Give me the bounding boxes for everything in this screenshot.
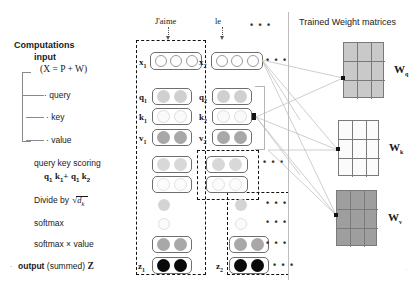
cell-q1 bbox=[152, 88, 192, 105]
row-label-z2: z2 bbox=[216, 261, 223, 273]
cell-k1 bbox=[152, 108, 192, 125]
dot-medium bbox=[217, 131, 230, 144]
dot-empty bbox=[170, 55, 182, 67]
cell-score-2 bbox=[206, 156, 248, 173]
matrix-wv-label: Wv bbox=[388, 211, 402, 225]
row-label-q2: q2 bbox=[199, 92, 207, 104]
matrix-wk-label-text: W bbox=[389, 141, 400, 153]
dot-light bbox=[212, 158, 225, 171]
dot-faint bbox=[212, 178, 225, 191]
attention-diagram: Computations input (X = P + W) · query ·… bbox=[0, 0, 415, 293]
output-bullet: · bbox=[10, 263, 12, 270]
row-label-v2-sub: 2 bbox=[204, 139, 207, 145]
dot-black bbox=[174, 259, 187, 272]
row-label-x2-sub: 2 bbox=[204, 63, 207, 69]
dot-black bbox=[234, 259, 247, 272]
dot-medium bbox=[251, 238, 264, 251]
token-2-arrowhead bbox=[220, 36, 224, 40]
matrix-wk-anchor bbox=[336, 147, 340, 151]
grid-line bbox=[337, 228, 378, 229]
header-ellipsis: • • • bbox=[250, 20, 271, 30]
matrix-wk bbox=[338, 120, 379, 176]
radicand-sub: k bbox=[82, 201, 85, 207]
row-label-k2-sub: 2 bbox=[204, 118, 207, 124]
dot-light bbox=[157, 158, 170, 171]
row-label-v1-sub: 1 bbox=[144, 139, 147, 145]
panel-divider bbox=[288, 12, 289, 280]
matrix-wq-label: Wq bbox=[394, 63, 408, 77]
dot-faint bbox=[234, 110, 247, 123]
matrix-wv-label-text: W bbox=[388, 211, 399, 223]
cell-x2 bbox=[211, 52, 263, 70]
row-label-q1-sub: 1 bbox=[144, 98, 147, 104]
step-scoring-label: query key scoring bbox=[34, 159, 101, 168]
step-softmax-label: softmax bbox=[34, 219, 64, 228]
step-divide-label: Divide by bbox=[34, 195, 69, 205]
cell-k2 bbox=[212, 108, 252, 125]
row-label-q1: q1 bbox=[139, 92, 147, 104]
matrix-wq bbox=[343, 42, 384, 98]
ellipsis-x-row: • • • bbox=[266, 55, 287, 65]
ellipsis-z-row: • • • bbox=[273, 260, 294, 270]
step-output-note: (summed) bbox=[47, 261, 85, 271]
dot-softmax-1 bbox=[158, 218, 170, 230]
ellipsis-softmax-value-row: • • • bbox=[266, 238, 287, 248]
matrix-wv bbox=[336, 190, 377, 246]
dot-light bbox=[157, 90, 170, 103]
token-name-1: J'aime bbox=[155, 16, 176, 26]
grid-line bbox=[352, 121, 353, 177]
input-formula: (X = P + W) bbox=[40, 64, 87, 74]
matrix-wk-label: Wk bbox=[389, 141, 403, 155]
step-query-label: query bbox=[49, 90, 70, 100]
dot-medium bbox=[234, 238, 247, 251]
ellipsis-score-row: • • • bbox=[263, 157, 284, 167]
left-column-subheader: input bbox=[34, 52, 56, 62]
dot-medium bbox=[174, 238, 187, 251]
ellipsis-softmax-row: • • • bbox=[266, 217, 287, 227]
cell-softmax-value-1 bbox=[152, 236, 192, 253]
matrix-wq-label-sub: q bbox=[405, 71, 408, 77]
cell-q2 bbox=[212, 88, 252, 105]
qkv-bracket bbox=[22, 72, 31, 142]
row-label-k1-sub: 1 bbox=[144, 118, 147, 124]
row-label-q2-sub: 2 bbox=[204, 98, 207, 104]
dot-faint bbox=[174, 110, 187, 123]
cell-scaled-1 bbox=[152, 176, 192, 193]
cell-v1 bbox=[152, 129, 192, 146]
matrix-wv-anchor bbox=[334, 213, 338, 217]
dot-faint bbox=[157, 178, 170, 191]
sqrt-group: √dk bbox=[71, 196, 84, 207]
grid-line bbox=[344, 80, 385, 81]
dot-black bbox=[157, 259, 170, 272]
cell-v2 bbox=[212, 129, 252, 146]
grid-line bbox=[364, 191, 365, 247]
formula-k2-sub: 2 bbox=[87, 177, 90, 183]
matrix-wk-label-sub: k bbox=[400, 149, 403, 155]
matrix-wq-anchor bbox=[341, 76, 345, 80]
grid-line bbox=[337, 209, 378, 210]
grid-line bbox=[339, 139, 380, 140]
row-label-z1: z1 bbox=[138, 261, 145, 273]
step-value-label: value bbox=[51, 135, 71, 145]
matrix-wq-label-text: W bbox=[394, 63, 405, 75]
dot-empty bbox=[186, 55, 198, 67]
dot-light bbox=[174, 158, 187, 171]
row-label-z1-sub: 1 bbox=[142, 267, 145, 273]
step-output: output (summed) Z bbox=[18, 262, 94, 272]
left-column-header: Computations bbox=[14, 40, 75, 50]
dot-light bbox=[174, 90, 187, 103]
dot-light bbox=[234, 90, 247, 103]
dot-empty bbox=[247, 55, 259, 67]
token-name-2: le bbox=[215, 16, 221, 26]
key-tick bbox=[26, 117, 44, 118]
dot-empty bbox=[155, 55, 167, 67]
dot-faint bbox=[174, 178, 187, 191]
radical-bar bbox=[76, 196, 88, 197]
dot-divide-2 bbox=[235, 199, 247, 211]
ellipsis-divide-row: • • • bbox=[266, 198, 287, 208]
step-key-label: key bbox=[51, 112, 64, 122]
right-panel-title: Trained Weight matrices bbox=[299, 17, 396, 27]
dot-divide-1 bbox=[158, 199, 170, 211]
value-tick bbox=[26, 140, 44, 141]
dot-medium bbox=[234, 131, 247, 144]
